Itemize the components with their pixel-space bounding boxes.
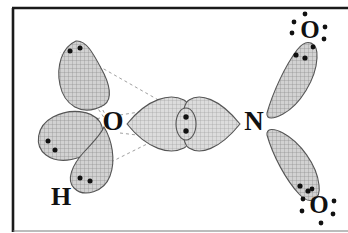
label-o-left: O	[102, 106, 123, 136]
overlap-oval-sigma-bond	[176, 108, 196, 140]
electron-dot	[78, 176, 83, 181]
electron-dot	[290, 31, 295, 36]
electron-dot	[68, 49, 73, 54]
electron-dot	[88, 179, 93, 184]
electron-dot	[46, 139, 51, 144]
label-o-bottom-right: O	[309, 191, 328, 218]
electron-dot	[183, 114, 188, 119]
overlap-shape	[176, 108, 196, 140]
electron-dot	[300, 209, 305, 214]
electron-dot	[293, 52, 298, 57]
electron-dot	[332, 199, 337, 204]
electron-dot	[311, 45, 316, 50]
electron-dot	[301, 197, 306, 202]
diagram-canvas: O H N O O	[0, 0, 348, 233]
label-h-bottom-left: H	[51, 182, 71, 211]
label-o-top-right: O	[300, 16, 319, 43]
electron-dot	[78, 46, 83, 51]
orbital-overlap-diagram: O H N O O	[0, 0, 348, 233]
electron-dot	[331, 212, 336, 217]
electron-dot	[319, 221, 324, 226]
electron-dot	[322, 37, 327, 42]
label-n-center: N	[244, 106, 264, 136]
electron-dot	[292, 20, 297, 25]
electron-dot	[183, 128, 188, 133]
electron-dot	[297, 183, 302, 188]
electron-dot	[323, 25, 328, 30]
electron-dot	[302, 55, 307, 60]
electron-dot	[53, 148, 58, 153]
